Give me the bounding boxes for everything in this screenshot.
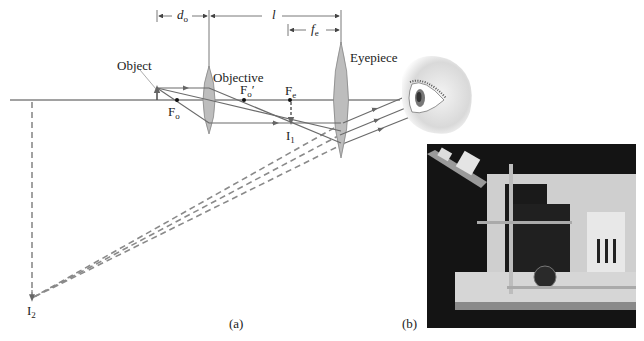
virtual-ray-extensions [32, 102, 345, 298]
panel-a-caption: (a) [229, 317, 243, 330]
i1-label: I1 [286, 129, 295, 145]
eye-illustration [402, 56, 472, 134]
fo-prime-label: Fo′ [240, 83, 255, 99]
microscope-photo-illustration [427, 144, 636, 328]
objective-label: Objective [213, 71, 264, 84]
microscope-photo [427, 144, 636, 328]
eyepiece-label: Eyepiece [350, 51, 398, 64]
focal-point-fo [175, 98, 179, 102]
panel-b-caption: (b) [402, 317, 417, 330]
dimension-do-label: do [176, 8, 189, 24]
dimension-l-label: l [270, 8, 278, 21]
object-label: Object [117, 59, 152, 72]
fe-label: Fe [285, 84, 296, 100]
light-rays [157, 88, 410, 143]
fo-label: Fo [168, 105, 180, 121]
dimension-fe-label: fe [310, 22, 320, 38]
i2-label: I2 [27, 304, 36, 320]
